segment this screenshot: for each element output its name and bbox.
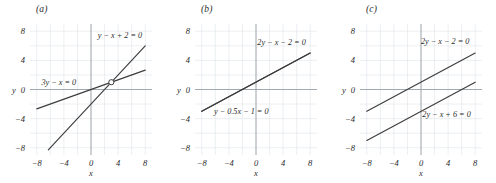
equation-label: 2y − x − 2 = 0 [421, 37, 469, 46]
x-tick-label: 4 [446, 158, 451, 168]
x-tick-label: 0 [89, 158, 94, 168]
y-tick-label: −4 [15, 114, 26, 124]
x-axis-label: x [253, 168, 258, 178]
x-tick-label: 0 [254, 158, 259, 168]
plot-panel-a: (a)−8−4048840−4−8xyy − x + 2 = 03y − x =… [0, 0, 165, 183]
x-tick-label: 4 [281, 158, 286, 168]
intersection-marker [109, 80, 114, 85]
y-axis-label: y [176, 85, 181, 95]
x-tick-label: 0 [419, 158, 424, 168]
equation-label: 3y − x = 0 [41, 78, 77, 87]
equation-label: 2y − x − 2 = 0 [257, 38, 305, 47]
plot-panel-c: (c)−8−4048840−4−8xy2y − x − 2 = 02y − x … [330, 0, 495, 183]
y-tick-label: 8 [351, 26, 356, 36]
equation-label: y − 0.5x − 1 = 0 [213, 107, 269, 116]
y-tick-label: 4 [351, 55, 356, 65]
x-tick-label: −4 [389, 158, 400, 168]
y-tick-label: −4 [345, 114, 356, 124]
x-tick-label: −4 [59, 158, 70, 168]
figure-three-panel-linear-systems: (a)−8−4048840−4−8xyy − x + 2 = 03y − x =… [0, 0, 496, 183]
y-axis-label: y [341, 85, 346, 95]
x-axis-label: x [88, 168, 93, 178]
y-tick-label: 0 [186, 85, 191, 95]
y-tick-label: −8 [345, 143, 356, 153]
x-tick-label: 8 [473, 158, 478, 168]
y-axis-label: y [11, 85, 16, 95]
x-tick-label: 4 [116, 158, 121, 168]
y-tick-label: −4 [180, 114, 191, 124]
x-tick-label: −8 [362, 158, 373, 168]
equation-label: y − x + 2 = 0 [97, 31, 142, 40]
x-tick-label: −4 [224, 158, 235, 168]
y-tick-label: 4 [21, 55, 26, 65]
x-tick-label: 8 [308, 158, 313, 168]
line-series-0 [48, 46, 145, 150]
y-tick-label: 0 [21, 85, 26, 95]
plot-panel-b: (b)−8−4048840−4−8xy2y − x − 2 = 0y − 0.5… [165, 0, 330, 183]
equation-label: 2y − x + 6 = 0 [422, 110, 470, 119]
y-tick-label: 8 [21, 26, 26, 36]
x-tick-label: −8 [32, 158, 43, 168]
y-tick-label: 4 [186, 55, 191, 65]
x-axis-label: x [418, 168, 423, 178]
y-tick-label: 0 [351, 85, 356, 95]
y-tick-label: −8 [180, 143, 191, 153]
x-tick-label: −8 [197, 158, 208, 168]
y-tick-label: −8 [15, 143, 26, 153]
x-tick-label: 8 [143, 158, 148, 168]
y-tick-label: 8 [186, 26, 191, 36]
